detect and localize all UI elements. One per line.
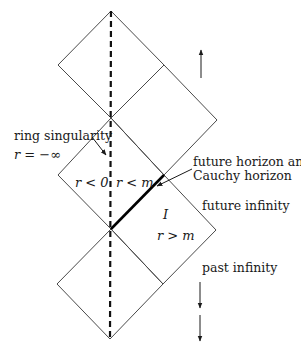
penrose-diagram: ring singularity r = −∞ r < 0 r < m futu… bbox=[0, 0, 301, 350]
r-less-m-label: r < m bbox=[116, 175, 154, 190]
r-greater-m-label: r > m bbox=[157, 228, 195, 243]
singularity-dashed-axis bbox=[110, 11, 111, 339]
future-horizon-label-line1: future horizon and bbox=[193, 154, 301, 169]
past-infinity-label: past infinity bbox=[202, 260, 278, 275]
future-infinity-label: future infinity bbox=[202, 198, 291, 213]
region-I-label: I bbox=[162, 207, 169, 222]
r-less-0-label: r < 0 bbox=[75, 175, 109, 190]
future-horizon-label-line2: Cauchy horizon bbox=[193, 168, 292, 183]
ring-singularity-label: ring singularity bbox=[14, 128, 113, 143]
r-minus-infinity-label: r = −∞ bbox=[14, 147, 61, 162]
